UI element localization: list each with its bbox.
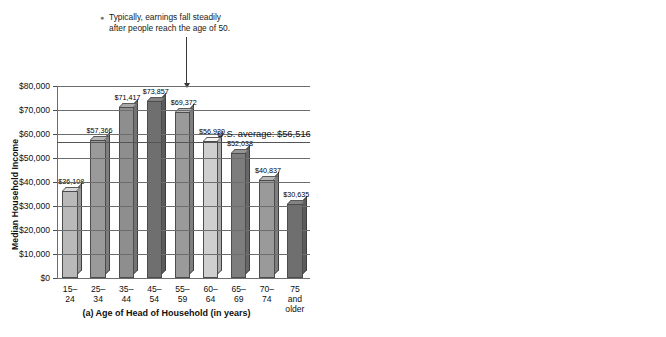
- x-axis-tick-label: 25–34: [91, 284, 105, 304]
- x-axis-tick-label: 55–59: [175, 284, 189, 304]
- x-axis-tick-label: 35–44: [119, 284, 133, 304]
- caption-a: (a) Age of Head of Household (in years): [0, 308, 333, 318]
- y-axis-tick-label: $10,000: [19, 249, 50, 259]
- bar-face: [231, 153, 246, 278]
- y-axis-tick-label: $30,000: [19, 201, 50, 211]
- gridline: [57, 254, 310, 255]
- x-axis-tick-label: 65–69: [232, 284, 246, 304]
- gridline: [57, 110, 310, 111]
- bar: $40,837: [259, 180, 274, 278]
- bar-face: [119, 107, 134, 278]
- gridline: [57, 278, 310, 279]
- bullet-icon: ●: [100, 13, 104, 24]
- bar-side: [162, 93, 166, 274]
- gridline: [57, 230, 310, 231]
- bar: $52,038: [231, 153, 246, 278]
- y-axis-tick: [53, 86, 57, 87]
- x-axis-tick-label: 70–74: [260, 284, 274, 304]
- bar-value-label: $71,417: [115, 93, 141, 102]
- y-axis-tick-label: $80,000: [19, 81, 50, 91]
- gridline: [57, 182, 310, 183]
- y-axis-tick: [53, 134, 57, 135]
- annotation-callout-a: ● Typically, earnings fall steadily afte…: [100, 12, 290, 33]
- y-axis-tick: [53, 158, 57, 159]
- bar-value-label: $73,857: [143, 87, 169, 96]
- bar-top: [119, 103, 138, 107]
- gridline: [57, 158, 310, 159]
- y-axis-tick-label: $50,000: [19, 153, 50, 163]
- us-average-line: [57, 142, 310, 143]
- bar: $71,417: [119, 107, 134, 278]
- bar-side: [106, 132, 110, 274]
- bar-side: [78, 183, 82, 274]
- y-axis-tick-label: $70,000: [19, 105, 50, 115]
- chart-panel-b: ● A generation ago, it was the elderly w…: [333, 0, 666, 337]
- y-axis-tick-label: $20,000: [19, 225, 50, 235]
- gridline: [57, 86, 310, 87]
- y-axis-tick: [53, 230, 57, 231]
- bar-face: [259, 180, 274, 278]
- bar: $56,930: [203, 141, 218, 278]
- bar: $73,857: [147, 101, 162, 278]
- bar-face: [287, 204, 302, 278]
- bar-value-label: $52,038: [227, 139, 253, 148]
- y-axis-tick: [53, 182, 57, 183]
- bar: $36,108: [62, 191, 77, 278]
- y-axis-tick: [53, 254, 57, 255]
- annotation-leader-a: [186, 37, 187, 87]
- x-axis-tick-label: 60–64: [203, 284, 217, 304]
- plot-area-a: 15–24$36,10825–34$57,36635–44$71,41745–5…: [57, 86, 310, 278]
- bar-side: [303, 196, 307, 274]
- gridline: [57, 206, 310, 207]
- y-axis-tick-label: $40,000: [19, 177, 50, 187]
- bar-top: [147, 97, 166, 101]
- us-average-label: U.S. average: $56,516: [217, 128, 311, 139]
- chart-panel-a: ● Typically, earnings fall steadily afte…: [0, 0, 333, 337]
- bar-side: [134, 99, 138, 274]
- bar-face: [90, 140, 105, 278]
- bar-side: [190, 104, 194, 274]
- y-axis-tick: [53, 278, 57, 279]
- bar: $57,366: [90, 140, 105, 278]
- x-axis-tick-label: 45–54: [147, 284, 161, 304]
- annotation-text-a: Typically, earnings fall steadily after …: [109, 12, 290, 33]
- y-axis-tick-label: $60,000: [19, 129, 50, 139]
- y-axis-tick: [53, 110, 57, 111]
- bar-value-label: $40,837: [255, 166, 281, 175]
- bar-face: [147, 101, 162, 278]
- bar-side: [275, 172, 279, 274]
- bar-side: [218, 133, 222, 274]
- bar: $30,635: [287, 204, 302, 278]
- bar-value-label: $30,635: [283, 190, 309, 199]
- x-axis-tick-label: 15–24: [63, 284, 77, 304]
- y-axis-tick-label: $0: [40, 273, 50, 283]
- bar-face: [203, 141, 218, 278]
- figure-root: ● Typically, earnings fall steadily afte…: [0, 0, 666, 337]
- y-axis-tick: [53, 206, 57, 207]
- bar-face: [62, 191, 77, 278]
- bar-value-label: $69,372: [171, 98, 197, 107]
